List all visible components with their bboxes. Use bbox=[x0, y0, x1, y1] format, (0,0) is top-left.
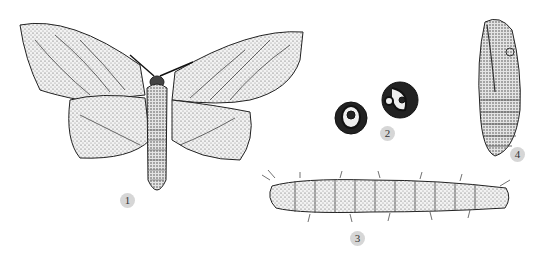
label-eggs: 2 bbox=[380, 126, 395, 141]
label-larva: 3 bbox=[350, 231, 365, 246]
larva bbox=[262, 170, 510, 222]
adult-moth bbox=[20, 23, 303, 190]
label-pupa: 4 bbox=[510, 147, 525, 162]
illustration-svg bbox=[0, 0, 542, 253]
pupa bbox=[479, 19, 521, 156]
eggs bbox=[335, 82, 418, 134]
label-adult: 1 bbox=[120, 193, 135, 208]
illustration-plate: 1 2 3 4 bbox=[0, 0, 542, 253]
